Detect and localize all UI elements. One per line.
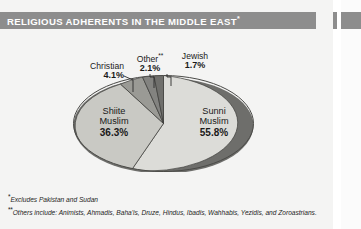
leader-line-other [150, 74, 154, 88]
pie-label-sunni-muslim: Sunni Muslim 55.8% [178, 106, 250, 138]
pie-label-sunni-muslim-value: 55.8% [178, 127, 250, 138]
footnote-1-text: Excludes Pakistan and Sudan [10, 196, 98, 203]
pie-callout-other-footnote-marker: ** [158, 52, 163, 59]
adjacent-column-sliver [341, 0, 361, 229]
pie-label-shiite-muslim-value: 36.3% [78, 127, 150, 138]
footnote-2: **Others include: Animists, Ahmadis, Bah… [8, 205, 328, 218]
pie-label-sunni-muslim-line1: Sunni [178, 106, 250, 116]
pie-callout-other-value: 2.1% [126, 64, 174, 74]
pie-callout-jewish-value: 1.7% [172, 61, 218, 71]
chart-title-text: RELIGIOUS ADHERENTS IN THE MIDDLE EAST [7, 17, 237, 28]
footnote-2-text: Others include: Animists, Ahmadis, Baha'… [13, 209, 317, 216]
pie-callout-christian-value: 4.1% [62, 71, 124, 81]
pie-label-shiite-muslim-line1: Shiite [78, 106, 150, 116]
footnote-1: *Excludes Pakistan and Sudan [8, 192, 328, 205]
chart-title-bar: RELIGIOUS ADHERENTS IN THE MIDDLE EAST* [0, 12, 316, 29]
pie-label-shiite-muslim-line2: Muslim [78, 116, 150, 126]
footnotes: *Excludes Pakistan and Sudan **Others in… [8, 192, 328, 218]
pie-callout-other: Other** 2.1% [126, 52, 174, 74]
pie-label-sunni-muslim-line2: Muslim [178, 116, 250, 126]
leader-line-christian [124, 76, 133, 92]
adjacent-header-bar-sliver [341, 12, 361, 29]
header-bar-gap-segment [333, 12, 337, 29]
pie-chart: Christian 4.1% Other** 2.1% Jewish 1.7% … [0, 30, 333, 190]
chart-title-footnote-marker: * [237, 15, 240, 22]
pie-label-shiite-muslim: Shiite Muslim 36.3% [78, 106, 150, 138]
pie-callout-christian: Christian 4.1% [62, 62, 124, 81]
pie-callout-jewish: Jewish 1.7% [172, 52, 218, 71]
page-title: RELIGIOUS ADHERENTS IN THE MIDDLE EAST* [0, 10, 240, 30]
figure-panel: RELIGIOUS ADHERENTS IN THE MIDDLE EAST* [0, 0, 361, 229]
leader-line-jewish [167, 74, 171, 86]
